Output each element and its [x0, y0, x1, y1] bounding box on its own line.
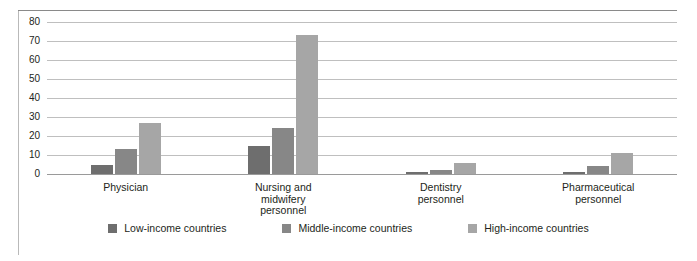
legend-swatch-icon — [468, 224, 477, 233]
x-axis-label-line: Dentistry — [371, 182, 511, 194]
legend-swatch-icon — [108, 224, 117, 233]
legend-label: Middle-income countries — [298, 223, 412, 234]
bar — [454, 163, 476, 174]
bar — [115, 149, 137, 174]
bar — [296, 35, 318, 174]
legend-item[interactable]: Low-income countries — [108, 223, 226, 234]
bar-group — [248, 22, 318, 174]
y-tick-label-0: 0 — [34, 169, 40, 179]
y-tick-label-60: 60 — [29, 55, 40, 65]
x-axis-label: Dentistrypersonnel — [371, 182, 511, 205]
legend-item[interactable]: Middle-income countries — [282, 223, 412, 234]
bar — [587, 166, 609, 174]
bar — [248, 146, 270, 175]
chart-legend: Low-income countriesMiddle-income countr… — [0, 223, 697, 234]
x-axis-label: Nursing andmidwiferypersonnel — [213, 182, 353, 217]
bar — [611, 153, 633, 174]
bar — [139, 123, 161, 174]
y-tick-label-10: 10 — [29, 150, 40, 160]
legend-label: High-income countries — [484, 223, 588, 234]
x-axis-label-line: Physician — [56, 182, 196, 194]
x-axis-label: Physician — [56, 182, 196, 194]
bar — [91, 165, 113, 175]
legend-swatch-icon — [282, 224, 291, 233]
gridline-0 — [47, 174, 677, 175]
bar-group — [563, 22, 633, 174]
plot-area: 80706050403020100 — [47, 22, 677, 174]
y-tick-label-40: 40 — [29, 93, 40, 103]
bar — [563, 172, 585, 174]
frame-left-rule — [18, 10, 19, 255]
x-axis-label-line: Nursing and — [213, 182, 353, 194]
y-tick-label-50: 50 — [29, 74, 40, 84]
x-axis-label-line: personnel — [528, 194, 668, 206]
chart-figure: 80706050403020100 PhysicianNursing andmi… — [0, 0, 697, 261]
legend-label: Low-income countries — [124, 223, 226, 234]
x-axis-label: Pharmaceuticalpersonnel — [528, 182, 668, 205]
x-axis-label-line: personnel — [371, 194, 511, 206]
bar-group — [91, 22, 161, 174]
bar — [406, 172, 428, 174]
bar-group — [406, 22, 476, 174]
y-tick-label-70: 70 — [29, 36, 40, 46]
y-tick-label-30: 30 — [29, 112, 40, 122]
bar — [272, 128, 294, 174]
y-tick-label-80: 80 — [29, 17, 40, 27]
y-tick-label-20: 20 — [29, 131, 40, 141]
frame-top-rule — [18, 10, 677, 11]
x-axis-label-line: Pharmaceutical — [528, 182, 668, 194]
x-axis-label-line: personnel — [213, 205, 353, 217]
bar — [430, 170, 452, 174]
legend-item[interactable]: High-income countries — [468, 223, 588, 234]
